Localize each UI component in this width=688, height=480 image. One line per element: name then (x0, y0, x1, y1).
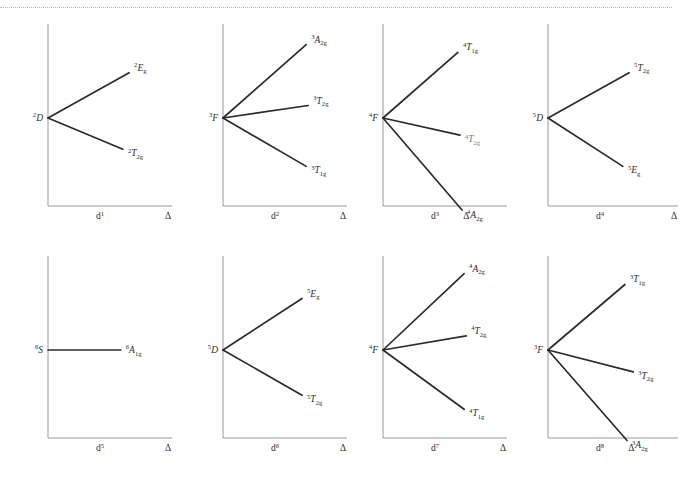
panel-axes (48, 24, 172, 206)
orgel-panel-d3: 4F4T1g4T2g4A2gd3Δ (345, 18, 515, 233)
free-ion-term-label-d1: 2D (33, 111, 43, 123)
term-line-d1-0: 2Eg (48, 61, 147, 118)
term-line-d8-0: 3T1g (548, 273, 646, 350)
term-label-d3-2: 4A2g (467, 208, 483, 221)
figure-sheet: 2D2Eg2T2gd1Δ3F3A2g3T2g3T1gd2Δ4F4T1g4T2g4… (0, 0, 688, 480)
term-line-d7-0: 4A2g (383, 262, 486, 350)
term-label-d8-2: 3A2g (632, 439, 648, 452)
free-ion-term-label-d7: 4F (369, 343, 378, 355)
delta-axis-label-d5: Δ (165, 443, 171, 453)
term-label-d5-0: 6A1g (126, 343, 142, 356)
config-label-d8: d8 (596, 442, 605, 453)
term-line-d2-2: 3T1g (223, 118, 327, 177)
term-line-d1-1: 2T2g (48, 118, 144, 160)
term-label-d7-0: 4A2g (469, 262, 485, 275)
config-label-d6: d6 (271, 442, 280, 453)
term-label-d7-1: 4T2g (471, 324, 487, 337)
term-line-d5-0: 6A1g (48, 343, 142, 356)
orgel-panel-d8: 3F3T1g3T2g3A2gd8Δ (510, 250, 686, 468)
free-ion-term-label-d3: 4F (369, 111, 378, 123)
panel-axes (548, 24, 678, 206)
config-label-d2: d2 (271, 210, 279, 221)
delta-axis-label-d7: Δ (500, 443, 506, 453)
term-label-d3-0: 4T1g (463, 41, 479, 54)
delta-axis-label-d3: Δ (463, 211, 469, 221)
delta-axis-label-d8: Δ (628, 443, 634, 453)
free-ion-term-label-d2: 3F (209, 111, 218, 123)
term-line-d3-0: 4T1g (383, 41, 479, 118)
config-label-d3: d3 (431, 210, 440, 221)
term-line-d8-2: 3A2g (548, 350, 648, 452)
term-label-d1-0: 2Eg (134, 61, 147, 74)
term-label-d4-1: 5Eg (628, 164, 641, 177)
term-label-d4-0: 5T2g (634, 61, 650, 74)
free-ion-term-label-d5: 6S (35, 343, 43, 355)
term-line-d4-0: 5T2g (548, 61, 650, 118)
term-label-d6-0: 5Eg (307, 287, 320, 300)
term-label-d8-0: 3T1g (630, 273, 646, 286)
term-label-d3-1: 4T2g (465, 133, 481, 146)
orgel-panel-d6: 5D5Eg5T2gd6Δ (185, 250, 355, 468)
panel-axes (223, 256, 347, 438)
orgel-panel-d2: 3F3A2g3T2g3T1gd2Δ (185, 18, 355, 233)
term-label-d2-2: 3T1g (311, 164, 327, 177)
config-label-d5: d5 (96, 442, 105, 453)
delta-axis-label-d4: Δ (671, 211, 677, 221)
panel-axes (548, 256, 678, 438)
orgel-panel-d4: 5D5T2g5Egd4Δ (510, 18, 686, 233)
term-label-d2-0: 3A2g (311, 33, 327, 46)
orgel-panel-d7: 4F4A2g4T2g4T1gd7Δ (345, 250, 515, 468)
free-ion-term-label-d6: 5D (208, 343, 218, 355)
config-label-d1: d1 (96, 210, 104, 221)
orgel-panel-d5: 6S6A1gd5Δ (10, 250, 180, 468)
term-line-d7-1: 4T2g (383, 324, 487, 350)
term-line-d3-1: 4T2g (383, 118, 481, 146)
free-ion-term-label-d4: 5D (533, 111, 543, 123)
term-line-d8-1: 3T2g (548, 350, 654, 382)
orgel-panel-grid: 2D2Eg2T2gd1Δ3F3A2g3T2g3T1gd2Δ4F4T1g4T2g4… (0, 0, 688, 480)
config-label-d4: d4 (596, 210, 605, 221)
term-label-d7-2: 4T1g (469, 407, 485, 420)
term-label-d2-1: 3T2g (313, 94, 329, 107)
term-label-d6-1: 5T2g (307, 393, 323, 406)
panel-axes (48, 256, 172, 438)
term-line-d2-1: 3T2g (223, 94, 329, 118)
panel-axes (383, 24, 507, 206)
term-label-d1-1: 2T2g (128, 147, 144, 160)
term-line-d7-2: 4T1g (383, 350, 485, 420)
delta-axis-label-d1: Δ (165, 211, 171, 221)
free-ion-term-label-d8: 3F (534, 343, 543, 355)
orgel-panel-d1: 2D2Eg2T2gd1Δ (10, 18, 180, 233)
config-label-d7: d7 (431, 442, 440, 453)
term-line-d6-1: 5T2g (223, 350, 323, 406)
term-line-d2-0: 3A2g (223, 33, 328, 118)
term-line-d4-1: 5Eg (548, 118, 641, 177)
term-line-d6-0: 5Eg (223, 287, 320, 350)
term-label-d8-1: 3T2g (638, 369, 654, 382)
